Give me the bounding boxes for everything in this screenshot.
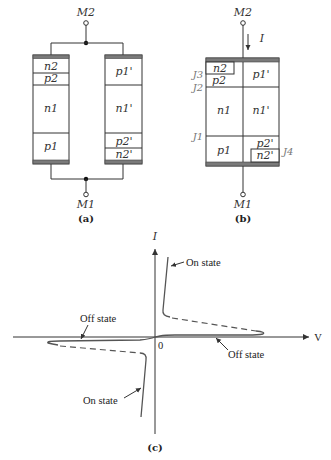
terminal-m1-icon — [241, 192, 246, 197]
region-n1: n1 — [217, 104, 231, 117]
x-axis-label: V — [314, 332, 322, 343]
junction-j1-label: J1 — [191, 131, 203, 142]
region-p2: p2 — [212, 74, 226, 87]
terminal-m1-label: M1 — [233, 198, 252, 211]
caption-b: (b) — [235, 213, 251, 224]
off-state-curve-left — [48, 337, 155, 345]
layer-p2: p2 — [44, 72, 58, 85]
on-state-lower-label: On state — [83, 395, 118, 406]
y-axis-label: I — [152, 230, 158, 243]
caption-a: (a) — [78, 213, 94, 224]
on-state-upper-label: On state — [186, 257, 221, 268]
on-state-curve-upper — [163, 257, 170, 317]
contact-bar — [206, 162, 279, 166]
off-state-curve-right — [155, 331, 264, 337]
layer-n1: n1 — [44, 102, 58, 115]
layer-p2-prime: p2' — [115, 135, 132, 148]
layer-n1-prime: n1' — [115, 102, 132, 115]
region-n1-prime: n1' — [252, 104, 269, 117]
caption-c: (c) — [147, 442, 163, 453]
current-label: I — [259, 32, 265, 45]
off-state-left-label: Off state — [80, 313, 117, 324]
annotation-arrow-icon — [171, 262, 184, 266]
layer-n2-prime: n2' — [115, 148, 132, 161]
annotation-arrow-icon — [124, 388, 141, 398]
breakover-dashed-lower — [60, 346, 140, 353]
left-thyristor: n2 p2 n1 p1 — [33, 55, 69, 164]
region-p1: p1 — [217, 144, 231, 157]
origin-label: 0 — [158, 340, 163, 351]
breakover-dashed-upper — [172, 318, 256, 331]
figure-a: M2 n2 p2 n1 p1 p1' n1' p2' — [33, 6, 142, 224]
contact-bar — [105, 55, 142, 59]
figure-b: M2 I n2 p2 n1 p1 p1' n1' p2' n2' J3 J2 J… — [191, 6, 294, 224]
layer-n2: n2 — [44, 60, 58, 73]
terminal-m2-label: M2 — [76, 6, 95, 19]
on-state-curve-lower — [140, 353, 146, 417]
region-n2-prime: n2' — [256, 149, 273, 162]
triac-figure: M2 n2 p2 n1 p1 p1' n1' p2' — [0, 0, 331, 460]
terminal-m2-label: M2 — [233, 6, 252, 19]
region-p1-prime: p1' — [252, 68, 269, 81]
terminal-m2-icon — [84, 21, 89, 26]
junction-j4-label: J4 — [281, 146, 293, 157]
right-thyristor: p1' n1' p2' n2' — [105, 55, 142, 164]
region-n2: n2 — [213, 62, 227, 75]
contact-bar — [33, 160, 69, 164]
junction-j3-label: J3 — [191, 69, 203, 80]
layer-p1: p1 — [44, 140, 58, 153]
terminal-m1-icon — [84, 192, 89, 197]
annotation-arrow-icon — [216, 338, 228, 350]
contact-bar — [33, 55, 69, 59]
terminal-m2-icon — [241, 21, 246, 26]
wire — [51, 164, 123, 179]
off-state-right-label: Off state — [228, 349, 265, 360]
terminal-m1-label: M1 — [76, 198, 95, 211]
junction-j2-label: J2 — [191, 82, 203, 93]
layer-p1-prime: p1' — [115, 65, 132, 78]
figure-c-iv-characteristic: I V 0 On state Off state Off state On st… — [13, 230, 322, 453]
